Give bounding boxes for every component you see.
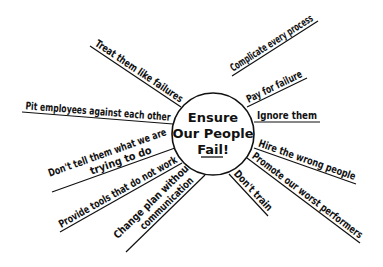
mind-map-diagram: Treat them like failuresPit employees ag…: [0, 0, 383, 267]
center-line-1: Ensure: [188, 110, 239, 125]
spoke-text: Pit employees against each other: [25, 99, 172, 123]
spoke-text: Pay for failure: [244, 68, 304, 105]
spoke-text: Treat them like failures: [93, 37, 186, 105]
spoke-label-pit-employees: Pit employees against each other: [25, 99, 172, 123]
center-line-2: Our People: [172, 126, 253, 141]
spoke-label-dont-tell-them: trying to doDon't tell them what we are: [46, 125, 171, 190]
center-line-3: Fail!: [197, 142, 229, 157]
spoke-label-ignore-them: Ignore them: [257, 109, 317, 121]
spoke-text: Complicate every process: [228, 12, 315, 74]
spoke-label-pay-for-failure: Pay for failure: [244, 68, 304, 105]
spoke-label-treat-them-like-failures: Treat them like failures: [93, 37, 186, 105]
spoke-line-complicate-every-process: [232, 21, 318, 76]
spoke-label-complicate-every-process: Complicate every process: [228, 12, 315, 74]
spoke-line-treat-them-like-failures: [90, 46, 181, 107]
diagram-canvas: Treat them like failuresPit employees ag…: [0, 0, 383, 267]
spoke-text: Ignore them: [257, 109, 317, 121]
